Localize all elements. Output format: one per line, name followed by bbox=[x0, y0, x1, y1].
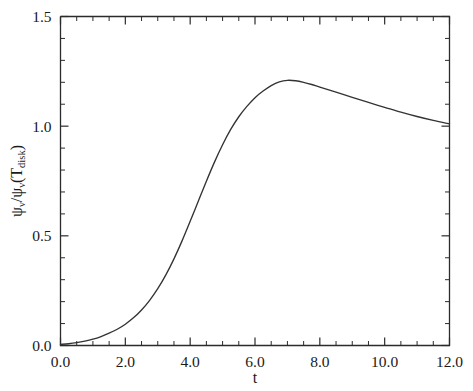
x-tick-label: 2.0 bbox=[116, 353, 136, 370]
y-tick-label: 1.5 bbox=[32, 8, 52, 25]
x-tick-label: 8.0 bbox=[310, 353, 330, 370]
y-label-psi-2: ψ bbox=[8, 188, 26, 198]
y-label-psi-1: ψ bbox=[8, 207, 26, 217]
y-tick-label: 0.5 bbox=[32, 227, 52, 244]
x-tick-label: 6.0 bbox=[245, 353, 265, 370]
y-tick-label: 1.0 bbox=[32, 118, 52, 135]
y-label-open-paren-T: (T bbox=[8, 168, 26, 183]
chart-background bbox=[0, 0, 473, 391]
x-axis-label: t bbox=[253, 369, 258, 386]
y-label-close-paren: ) bbox=[8, 145, 26, 150]
line-chart: 0.02.04.06.08.010.012.0 0.00.51.01.5 t ψ… bbox=[0, 0, 473, 391]
x-tick-label: 0.0 bbox=[51, 353, 71, 370]
y-label-sub-disk: disk bbox=[16, 150, 27, 168]
x-tick-label: 4.0 bbox=[180, 353, 200, 370]
x-tick-label: 10.0 bbox=[371, 353, 398, 370]
y-tick-label: 0.0 bbox=[32, 337, 52, 354]
figure-container: 0.02.04.06.08.010.012.0 0.00.51.01.5 t ψ… bbox=[0, 0, 473, 391]
x-tick-label: 12.0 bbox=[436, 353, 463, 370]
